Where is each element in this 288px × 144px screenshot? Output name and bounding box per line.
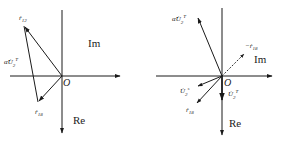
phasor-diagram-canvas <box>0 0 288 144</box>
right-r18-vector <box>197 76 222 103</box>
right-u2s-vector <box>198 76 222 86</box>
right-u2t-label: U̇2T <box>228 89 238 100</box>
right-neg-r18-label: −ṙ18 <box>245 43 257 51</box>
left-phasor-diagram <box>10 10 120 133</box>
left-r18-vector <box>39 76 62 101</box>
right-r18-label: ṙ18 <box>186 107 194 115</box>
left-origin-label: O <box>63 78 70 88</box>
left-r12-label: ṙ12 <box>19 15 27 23</box>
left-r12-vector <box>25 27 62 76</box>
right-im-axis-label: Im <box>254 54 266 65</box>
right-re-axis-label: Re <box>229 118 241 129</box>
left-im-axis-label: Im <box>88 38 100 49</box>
right-u2s-label: U̇2s <box>180 86 190 97</box>
left-re-axis-label: Re <box>73 115 85 126</box>
left-alpha-u2t-label: α̂U̇2T <box>4 57 18 68</box>
left-r18-label: ṙ18 <box>35 109 43 117</box>
right-alpha-u2t-label: α̂U̇2T <box>172 14 186 25</box>
right-phasor-diagram <box>156 8 272 135</box>
right-alpha-u2t-vector <box>198 18 222 76</box>
right-neg-r18-vector <box>222 54 244 76</box>
left-alpha-u2t-vector <box>24 26 38 102</box>
right-origin-label: O <box>224 78 231 88</box>
